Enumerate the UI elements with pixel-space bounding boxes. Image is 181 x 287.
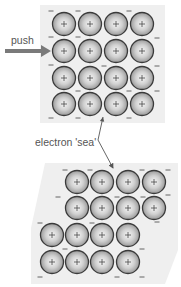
positive-ion [131, 13, 154, 36]
positive-ion [143, 171, 166, 194]
positive-ion [79, 13, 102, 36]
bottom-lattice [31, 163, 178, 284]
positive-ion [117, 197, 140, 220]
electron-sea-label: electron 'sea' [35, 137, 96, 148]
positive-ion [41, 251, 64, 274]
positive-ion [53, 40, 76, 63]
positive-ion [66, 224, 89, 247]
positive-ion [105, 13, 128, 36]
positive-ion [143, 197, 166, 220]
positive-ion [131, 93, 154, 116]
positive-ion [105, 93, 128, 116]
positive-ion [91, 197, 114, 220]
positive-ion [66, 171, 89, 194]
positive-ion [131, 40, 154, 63]
positive-ion [105, 40, 128, 63]
positive-ion [117, 224, 140, 247]
positive-ion [53, 13, 76, 36]
positive-ion [117, 171, 140, 194]
positive-ion [131, 67, 154, 90]
positive-ion [91, 171, 114, 194]
positive-ion [66, 251, 89, 274]
push-label: push [11, 35, 34, 46]
positive-ion [105, 67, 128, 90]
positive-ion [117, 251, 140, 274]
positive-ion [41, 224, 64, 247]
electron-sea-pointer-arrow-icon [98, 117, 113, 168]
positive-ion [79, 93, 102, 116]
positive-ion [79, 67, 102, 90]
positive-ion [91, 224, 114, 247]
top-lattice [40, 5, 165, 123]
positive-ion [53, 93, 76, 116]
positive-ion [91, 251, 114, 274]
positive-ion [79, 40, 102, 63]
positive-ion [66, 197, 89, 220]
positive-ion [53, 67, 76, 90]
